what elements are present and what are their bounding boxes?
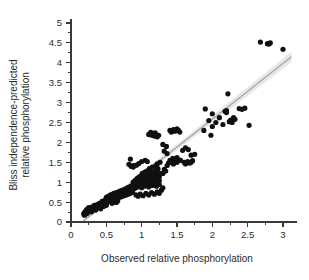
y-axis-title-line1: Bliss independence-predicted (8, 59, 19, 190)
data-point (126, 162, 131, 167)
data-point (134, 162, 139, 167)
y-tick-label: 3.5 (49, 77, 62, 88)
data-point (165, 151, 170, 156)
data-point (152, 130, 157, 135)
chart-canvas: 00.511.522.53 00.511.522.533.544.55 Obse… (0, 0, 309, 280)
y-tick-label: 4 (57, 57, 62, 68)
data-point (160, 185, 165, 190)
data-point (163, 168, 168, 173)
y-tick-label: 1.5 (49, 157, 62, 168)
data-point (145, 159, 150, 164)
y-tick-label: 1 (57, 177, 62, 188)
y-tick-label: 4.5 (49, 37, 62, 48)
x-tick-label: 1 (139, 229, 144, 240)
data-point (139, 159, 144, 164)
x-axis (71, 222, 297, 227)
y-tick-label: 0.5 (49, 197, 62, 208)
data-point (210, 111, 215, 116)
data-point (203, 106, 208, 111)
data-point (128, 157, 133, 162)
data-points-group (81, 40, 285, 218)
data-point (164, 144, 169, 149)
data-point (157, 160, 162, 165)
y-axis-title-line2: relative phosphorylation (20, 72, 31, 178)
data-point (210, 124, 215, 129)
data-point (190, 158, 195, 163)
x-tick-label: 2.5 (241, 229, 254, 240)
y-tick-label: 0 (57, 216, 62, 227)
data-point (213, 120, 218, 125)
data-point (242, 106, 247, 111)
data-point (268, 40, 273, 45)
data-point (224, 110, 229, 115)
data-point (220, 122, 225, 127)
data-point (258, 40, 263, 45)
data-point (201, 128, 206, 133)
x-tick-label: 0 (68, 229, 73, 240)
data-point (192, 152, 197, 157)
y-tick-label: 2 (57, 137, 62, 148)
x-tick-labels: 00.511.522.53 (68, 229, 285, 240)
x-tick-label: 2 (210, 229, 215, 240)
x-tick-label: 0.5 (100, 229, 113, 240)
data-point (115, 198, 120, 203)
data-point (177, 129, 182, 134)
y-tick-label: 2.5 (49, 117, 62, 128)
scatter-plot-figure: 00.511.522.53 00.511.522.533.544.55 Obse… (0, 0, 309, 280)
data-point (208, 133, 213, 138)
data-point (280, 47, 285, 52)
data-point (232, 117, 237, 122)
y-tick-label: 3 (57, 97, 62, 108)
x-tick-label: 3 (280, 229, 285, 240)
y-tick-labels: 00.511.522.533.544.55 (49, 17, 62, 227)
data-point (109, 201, 114, 206)
x-axis-title: Observed relative phosphorylation (101, 253, 253, 264)
data-point (225, 91, 230, 96)
y-tick-label: 5 (57, 17, 62, 28)
data-point (186, 147, 191, 152)
data-point (206, 118, 211, 123)
y-axis (66, 19, 71, 222)
data-point (246, 123, 251, 128)
x-tick-label: 1.5 (170, 229, 183, 240)
data-point (217, 115, 222, 120)
